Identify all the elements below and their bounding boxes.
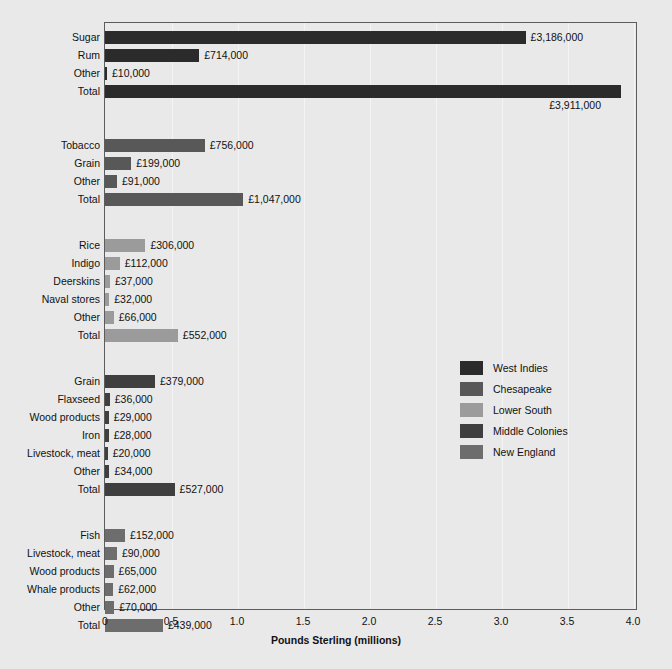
bar-category-label: Naval stores [0, 293, 100, 306]
bar [105, 139, 205, 152]
x-tick-label: 1.5 [283, 615, 323, 627]
bar [105, 85, 621, 98]
bar-value-label: £112,000 [125, 257, 168, 270]
bar-row: Sugar£3,186,000 [0, 31, 672, 44]
legend-label: Middle Colonies [493, 421, 568, 442]
bar-value-label: £34,000 [114, 465, 152, 478]
x-tick-label: 3.5 [547, 615, 587, 627]
x-axis-title: Pounds Sterling (millions) [0, 634, 672, 646]
bar-row: Wood products£65,000 [0, 565, 672, 578]
bar-value-label: £29,000 [114, 411, 152, 424]
legend-swatch [460, 424, 483, 438]
bar [105, 311, 114, 324]
bar [105, 429, 109, 442]
bar-value-label: £90,000 [122, 547, 160, 560]
bar [105, 31, 526, 44]
bar-row: Deerskins£37,000 [0, 275, 672, 288]
legend-swatch [460, 382, 483, 396]
bar-value-label: £36,000 [115, 393, 153, 406]
x-tick-label: 0 [85, 615, 125, 627]
bar [105, 601, 114, 614]
bar-value-label: £152,000 [130, 529, 174, 542]
bar [105, 157, 131, 170]
bar [105, 293, 109, 306]
bar-category-label: Livestock, meat [0, 547, 100, 560]
bar-category-label: Total [0, 483, 100, 496]
legend-item[interactable]: Lower South [460, 400, 610, 421]
bar-category-label: Indigo [0, 257, 100, 270]
bar-value-label: £527,000 [180, 483, 224, 496]
bar-value-label: £3,186,000 [531, 31, 584, 44]
bar-value-label: £37,000 [115, 275, 153, 288]
bar-category-label: Total [0, 85, 100, 98]
bar-value-label: £306,000 [150, 239, 194, 252]
bar-row: Naval stores£32,000 [0, 293, 672, 306]
bar-category-label: Livestock, meat [0, 447, 100, 460]
x-tick-label: 1.0 [217, 615, 257, 627]
bar-category-label: Other [0, 175, 100, 188]
x-tick-label: 3.0 [481, 615, 521, 627]
x-tick-label: 2.5 [415, 615, 455, 627]
bar-row: Rum£714,000 [0, 49, 672, 62]
bar-value-label: £20,000 [113, 447, 151, 460]
bar [105, 411, 109, 424]
bar [105, 375, 155, 388]
bar-row: Whale products£62,000 [0, 583, 672, 596]
bar-value-label: £3,911,000 [549, 98, 601, 111]
bar-row: Indigo£112,000 [0, 257, 672, 270]
bar-value-label: £62,000 [118, 583, 156, 596]
legend-item[interactable]: West Indies [460, 358, 610, 379]
bar-value-label: £10,000 [112, 67, 150, 80]
legend-item[interactable]: New England [460, 442, 610, 463]
bar-value-label: £1,047,000 [248, 193, 301, 206]
bar-category-label: Other [0, 465, 100, 478]
bar [105, 483, 175, 496]
bar-value-label: £32,000 [114, 293, 152, 306]
bar-value-label: £379,000 [160, 375, 204, 388]
bar-category-label: Wood products [0, 411, 100, 424]
bar [105, 257, 120, 270]
bar-row: Total£552,000 [0, 329, 672, 342]
bar [105, 239, 145, 252]
bar-category-label: Grain [0, 157, 100, 170]
bar-row: Grain£199,000 [0, 157, 672, 170]
legend-label: West Indies [493, 358, 548, 379]
bar [105, 175, 117, 188]
legend-swatch [460, 361, 483, 375]
bar [105, 465, 109, 478]
legend-item[interactable]: Chesapeake [460, 379, 610, 400]
bar-value-label: £65,000 [119, 565, 157, 578]
bar-category-label: Other [0, 67, 100, 80]
bar-category-label: Tobacco [0, 139, 100, 152]
legend-label: Chesapeake [493, 379, 552, 400]
bar-category-label: Whale products [0, 583, 100, 596]
bar [105, 547, 117, 560]
bar-value-label: £552,000 [183, 329, 227, 342]
bar [105, 583, 113, 596]
bar-value-label: £714,000 [204, 49, 248, 62]
bar [105, 67, 107, 80]
legend-swatch [460, 403, 483, 417]
bar [105, 529, 125, 542]
bar-category-label: Grain [0, 375, 100, 388]
bar-category-label: Rum [0, 49, 100, 62]
bar-value-label: £70,000 [119, 601, 157, 614]
bar-value-label: £28,000 [114, 429, 152, 442]
bar-category-label: Total [0, 329, 100, 342]
x-tick-label: 0.5 [151, 615, 191, 627]
bar [105, 565, 114, 578]
bars-layer: Sugar£3,186,000Rum£714,000Other£10,000To… [0, 0, 672, 669]
x-tick-label: 2.0 [349, 615, 389, 627]
bar-value-label: £66,000 [119, 311, 157, 324]
bar-row: Rice£306,000 [0, 239, 672, 252]
legend-item[interactable]: Middle Colonies [460, 421, 610, 442]
chart-figure: Sugar£3,186,000Rum£714,000Other£10,000To… [0, 0, 672, 669]
bar-value-label: £91,000 [122, 175, 160, 188]
bar-category-label: Total [0, 193, 100, 206]
bar [105, 329, 178, 342]
bar-row: Total£3,911,000 [0, 85, 672, 98]
bar-category-label: Rice [0, 239, 100, 252]
bar-category-label: Sugar [0, 31, 100, 44]
bar-category-label: Other [0, 601, 100, 614]
legend-swatch [460, 445, 483, 459]
